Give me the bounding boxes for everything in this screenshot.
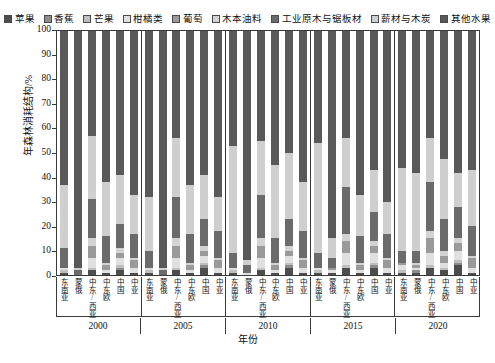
- bar-segment[interactable]: [214, 197, 222, 231]
- stacked-bar[interactable]: [454, 31, 462, 275]
- bar-segment[interactable]: [285, 256, 293, 263]
- bar-segment[interactable]: [328, 31, 336, 238]
- bar-segment[interactable]: [314, 253, 322, 268]
- bar-segment[interactable]: [454, 173, 462, 207]
- bar-segment[interactable]: [186, 273, 194, 275]
- bar-segment[interactable]: [88, 238, 96, 245]
- stacked-bar[interactable]: [172, 31, 180, 275]
- bar-segment[interactable]: [468, 273, 476, 275]
- bar-segment[interactable]: [342, 253, 350, 265]
- bar-segment[interactable]: [186, 185, 194, 234]
- bar-segment[interactable]: [130, 260, 138, 267]
- bar-segment[interactable]: [74, 31, 82, 268]
- bar-segment[interactable]: [130, 234, 138, 258]
- bar-segment[interactable]: [159, 270, 167, 275]
- bar-segment[interactable]: [186, 234, 194, 263]
- bar-segment[interactable]: [172, 31, 180, 138]
- bar-segment[interactable]: [243, 31, 251, 260]
- stacked-bar[interactable]: [271, 31, 279, 275]
- bar-segment[interactable]: [299, 273, 307, 275]
- bar-segment[interactable]: [271, 165, 279, 238]
- bar-segment[interactable]: [370, 212, 378, 241]
- bar-segment[interactable]: [257, 238, 265, 245]
- bar-segment[interactable]: [314, 273, 322, 275]
- bar-segment[interactable]: [356, 236, 364, 263]
- bar-segment[interactable]: [271, 238, 279, 262]
- stacked-bar[interactable]: [74, 31, 82, 275]
- bar-segment[interactable]: [426, 238, 434, 253]
- bar-segment[interactable]: [102, 236, 110, 263]
- bar-segment[interactable]: [145, 251, 153, 268]
- bar-segment[interactable]: [454, 31, 462, 173]
- stacked-bar[interactable]: [60, 31, 68, 275]
- bar-segment[interactable]: [257, 141, 265, 195]
- stacked-bar[interactable]: [229, 31, 237, 275]
- stacked-bar[interactable]: [299, 31, 307, 275]
- bar-segment[interactable]: [285, 268, 293, 275]
- bar-segment[interactable]: [440, 270, 448, 275]
- bar-segment[interactable]: [398, 31, 406, 168]
- stacked-bar[interactable]: [412, 31, 420, 275]
- bar-segment[interactable]: [229, 273, 237, 275]
- stacked-bar[interactable]: [440, 31, 448, 275]
- stacked-bar[interactable]: [342, 31, 350, 275]
- bar-segment[interactable]: [370, 246, 378, 253]
- bar-segment[interactable]: [200, 268, 208, 275]
- stacked-bar[interactable]: [314, 31, 322, 275]
- bar-segment[interactable]: [440, 159, 448, 219]
- bar-segment[interactable]: [88, 270, 96, 275]
- bar-segment[interactable]: [370, 268, 378, 275]
- bar-segment[interactable]: [243, 273, 251, 275]
- bar-segment[interactable]: [60, 31, 68, 185]
- bar-segment[interactable]: [440, 256, 448, 263]
- bar-segment[interactable]: [172, 270, 180, 275]
- stacked-bar[interactable]: [398, 31, 406, 275]
- bar-segment[interactable]: [426, 253, 434, 265]
- bar-segment[interactable]: [88, 246, 96, 258]
- bar-segment[interactable]: [314, 143, 322, 253]
- bar-segment[interactable]: [412, 173, 420, 251]
- bar-segment[interactable]: [299, 31, 307, 182]
- bar-segment[interactable]: [60, 185, 68, 248]
- bar-segment[interactable]: [426, 138, 434, 182]
- bar-segment[interactable]: [243, 265, 251, 272]
- bar-segment[interactable]: [383, 234, 391, 258]
- bar-segment[interactable]: [257, 258, 265, 268]
- stacked-bar[interactable]: [159, 31, 167, 275]
- bar-segment[interactable]: [398, 168, 406, 251]
- stacked-bar[interactable]: [328, 31, 336, 275]
- stacked-bar[interactable]: [243, 31, 251, 275]
- bar-segment[interactable]: [356, 195, 364, 236]
- stacked-bar[interactable]: [370, 31, 378, 275]
- bar-segment[interactable]: [229, 146, 237, 253]
- bar-segment[interactable]: [257, 31, 265, 141]
- bar-segment[interactable]: [257, 195, 265, 239]
- bar-segment[interactable]: [383, 202, 391, 234]
- bar-segment[interactable]: [342, 268, 350, 275]
- bar-segment[interactable]: [271, 31, 279, 165]
- bar-segment[interactable]: [172, 246, 180, 258]
- bar-segment[interactable]: [299, 260, 307, 267]
- bar-segment[interactable]: [285, 31, 293, 153]
- bar-segment[interactable]: [454, 207, 462, 239]
- bar-segment[interactable]: [116, 224, 124, 248]
- bar-segment[interactable]: [468, 258, 476, 268]
- bar-segment[interactable]: [200, 175, 208, 219]
- bar-segment[interactable]: [60, 273, 68, 275]
- bar-segment[interactable]: [116, 258, 124, 265]
- bar-segment[interactable]: [271, 273, 279, 275]
- stacked-bar[interactable]: [145, 31, 153, 275]
- bar-segment[interactable]: [328, 273, 336, 275]
- bar-segment[interactable]: [172, 258, 180, 268]
- stacked-bar[interactable]: [88, 31, 96, 275]
- bar-segment[interactable]: [383, 273, 391, 275]
- bar-segment[interactable]: [398, 273, 406, 275]
- bar-segment[interactable]: [130, 195, 138, 234]
- stacked-bar[interactable]: [383, 31, 391, 275]
- bar-segment[interactable]: [172, 197, 180, 238]
- bar-segment[interactable]: [257, 246, 265, 258]
- bar-segment[interactable]: [88, 31, 96, 136]
- bar-segment[interactable]: [74, 270, 82, 275]
- bar-segment[interactable]: [328, 258, 336, 268]
- bar-segment[interactable]: [454, 265, 462, 275]
